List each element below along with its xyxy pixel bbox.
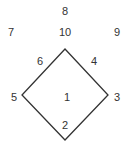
- diagram-canvas: 8 7 10 9 6 4 5 1 3 2: [0, 0, 131, 151]
- label-9: 9: [114, 27, 120, 38]
- label-4: 4: [91, 56, 97, 67]
- label-10: 10: [59, 27, 71, 38]
- label-5: 5: [11, 92, 17, 103]
- label-8: 8: [62, 6, 68, 17]
- label-2: 2: [62, 120, 68, 131]
- label-6: 6: [37, 56, 43, 67]
- label-7: 7: [8, 27, 14, 38]
- label-3: 3: [114, 92, 120, 103]
- label-1: 1: [64, 92, 70, 103]
